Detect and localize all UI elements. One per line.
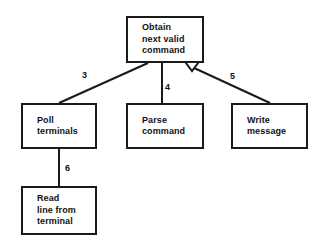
node-label-line: Obtain [128, 22, 171, 34]
node-read-line-from-terminal[interactable]: Read line from terminal [21, 186, 97, 235]
node-label-line: terminal [23, 216, 73, 228]
node-write-message[interactable]: Write message [231, 103, 308, 149]
edge-label-3: 3 [82, 70, 87, 80]
edge-label-4: 4 [165, 82, 170, 92]
node-label-line: next valid [128, 34, 185, 46]
node-label-line: Poll [23, 115, 54, 127]
node-label-line: message [233, 126, 286, 138]
structure-chart-diagram: Obtain next valid command Poll terminals… [0, 0, 323, 252]
node-label-line: command [128, 45, 185, 57]
node-parse-command[interactable]: Parse command [126, 103, 204, 149]
edge-obtain-poll [59, 63, 148, 103]
node-label-line: terminals [23, 126, 78, 138]
node-label-line: line from [23, 205, 76, 217]
node-label-line: Read [23, 193, 59, 205]
node-label-line: Parse [128, 115, 167, 127]
node-obtain-next-valid-command[interactable]: Obtain next valid command [126, 16, 204, 63]
node-label-line: Write [233, 115, 270, 127]
edge-label-5: 5 [230, 71, 235, 81]
node-poll-terminals[interactable]: Poll terminals [21, 103, 97, 149]
edge-label-6: 6 [65, 163, 70, 173]
node-label-line: command [128, 126, 185, 138]
